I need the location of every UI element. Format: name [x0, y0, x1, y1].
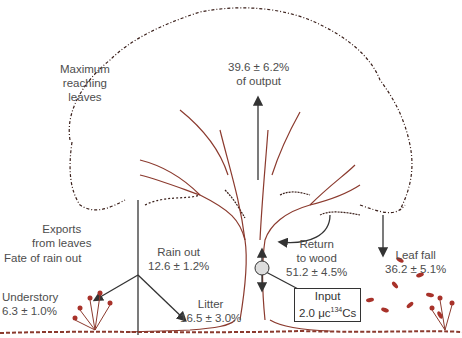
label-litter: Litter 16.5 ± 3.0% — [180, 297, 241, 325]
label-understory: Understory 6.3 ± 1.0% — [2, 290, 58, 318]
label-exports: Exports from leaves — [32, 222, 91, 250]
canopy-outline — [69, 8, 412, 218]
input-point — [255, 261, 269, 275]
label-rain-out: Rain out 12.6 ± 1.2% — [148, 245, 209, 273]
label-fate-rain: Fate of rain out — [4, 251, 81, 265]
label-output: 39.6 ± 6.2% of output — [228, 60, 289, 88]
label-max-leaves: Maximum reaching leaves — [60, 62, 110, 104]
input-amount: 2.0 μc134Cs — [299, 303, 356, 320]
ground-line — [0, 331, 462, 333]
input-box: Input 2.0 μc134Cs — [294, 288, 361, 322]
label-return-wood: Return to wood 51.2 ± 4.5% — [286, 237, 347, 279]
label-leaf-fall: Leaf fall 36.2 ± 5.1% — [385, 248, 446, 276]
tree-diagram-art — [0, 0, 462, 338]
